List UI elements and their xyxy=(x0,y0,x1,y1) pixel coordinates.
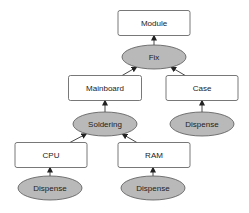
node-label: Dispense xyxy=(136,184,170,193)
node-soldering: Soldering xyxy=(73,112,137,136)
node-mainboard: Mainboard xyxy=(69,76,142,101)
edge-case-to-fix xyxy=(171,67,185,75)
nodes: ModuleFixMainboardCaseSolderingDispenseC… xyxy=(15,11,238,201)
edge-ram-to-soldering xyxy=(122,134,136,142)
node-label: Dispense xyxy=(33,184,67,193)
node-cpu: CPU xyxy=(15,143,87,168)
edge-cpu-to-soldering xyxy=(70,134,87,143)
edge-mainboard-to-fix xyxy=(122,67,136,75)
node-fix: Fix xyxy=(122,45,186,69)
assembly-diagram: ModuleFixMainboardCaseSolderingDispenseC… xyxy=(0,0,249,213)
node-ram: RAM xyxy=(118,143,190,168)
node-label: Fix xyxy=(149,53,160,62)
node-case: Case xyxy=(166,76,238,101)
node-label: RAM xyxy=(145,151,163,160)
node-module: Module xyxy=(118,11,190,36)
node-label: Soldering xyxy=(88,120,122,129)
node-label: Mainboard xyxy=(86,84,124,93)
node-dispense-cpu: Dispense xyxy=(18,176,82,200)
node-label: Dispense xyxy=(185,120,219,129)
node-label: Module xyxy=(141,19,168,28)
node-label: CPU xyxy=(43,151,60,160)
node-label: Case xyxy=(193,84,212,93)
node-dispense-ram: Dispense xyxy=(121,176,185,200)
node-dispense-case: Dispense xyxy=(170,112,234,136)
